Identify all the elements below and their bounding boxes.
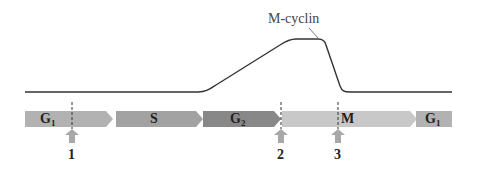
checkpoint-3-label: 3 — [334, 147, 341, 163]
phase-label-g2: G2 — [230, 111, 245, 131]
checkpoint-3-up-arrow-icon — [331, 129, 345, 143]
phase-label-g1-end: G1 — [425, 111, 440, 131]
m-cyclin-label: M-cyclin — [268, 11, 319, 27]
cell-cycle-diagram: M-cyclin G1 S G2 M G1 1 2 3 — [0, 0, 479, 169]
phase-label-m: M — [341, 111, 354, 127]
checkpoint-2-label: 2 — [277, 147, 284, 163]
phase-label-s: S — [150, 111, 158, 127]
phase-arrow-g1-start — [25, 111, 113, 127]
checkpoint-1-label: 1 — [68, 147, 75, 163]
checkpoint-1-up-arrow-icon — [65, 129, 79, 143]
m-cyclin-leader-line — [309, 28, 318, 38]
m-cyclin-curve — [25, 39, 452, 92]
phase-label-g1-start: G1 — [40, 111, 55, 131]
phase-arrow-s — [116, 111, 203, 127]
checkpoint-2-up-arrow-icon — [274, 129, 288, 143]
